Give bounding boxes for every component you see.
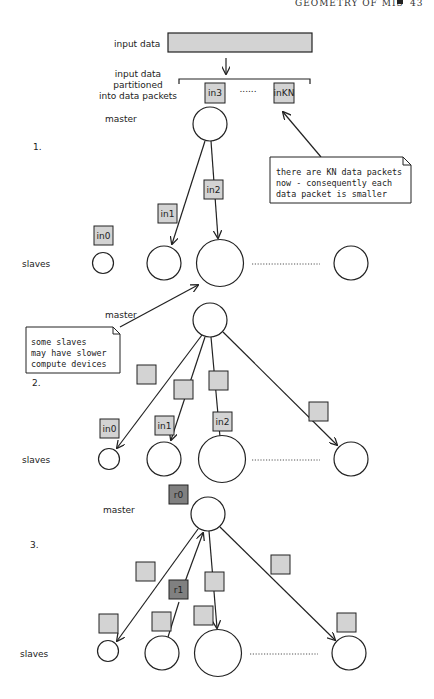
callout2-line1: some slaves bbox=[31, 337, 86, 347]
callout2-line2: may have slower bbox=[31, 348, 107, 358]
stage3-slave-1 bbox=[145, 636, 179, 670]
svg-text:in2: in2 bbox=[207, 185, 221, 195]
svg-text:r1: r1 bbox=[174, 585, 183, 595]
stage2-slave-n bbox=[334, 442, 368, 476]
stage2-number: 2. bbox=[32, 378, 41, 388]
stage1-slaves-label: slaves bbox=[22, 259, 51, 269]
callout2-line3: compute devices bbox=[31, 359, 107, 369]
stage1-slave-n bbox=[334, 246, 368, 280]
stage2-master-node bbox=[193, 303, 227, 337]
svg-text:in1: in1 bbox=[161, 209, 175, 219]
stage2-packet-pending-d bbox=[309, 402, 328, 421]
stage2-master-label: master bbox=[105, 310, 137, 320]
stage3-slave-n bbox=[332, 636, 366, 670]
stage3-slave-0 bbox=[98, 641, 119, 662]
stage1-master-node bbox=[193, 107, 227, 141]
stage3-packet-g bbox=[337, 613, 356, 632]
stage1-master-label: master bbox=[105, 114, 137, 124]
diagram-canvas: GEOMETRY OF MIS 43 input data input data… bbox=[0, 0, 434, 699]
stage2-packet-pending-a bbox=[137, 365, 156, 384]
stage3-packet-b bbox=[271, 555, 290, 574]
stage3-packet-f bbox=[194, 606, 213, 625]
header-square-icon bbox=[397, 0, 403, 4]
stage1-slave-0 bbox=[93, 253, 114, 274]
stage1-number: 1. bbox=[33, 142, 42, 152]
stage3-packet-e bbox=[152, 612, 171, 631]
stage2-edge-slaven bbox=[223, 332, 337, 445]
stage3-slave-2 bbox=[195, 630, 242, 677]
stage3-packet-c bbox=[205, 572, 224, 591]
callout2-pointer bbox=[120, 285, 198, 327]
svg-text:inKN: inKN bbox=[274, 88, 295, 98]
svg-text:in0: in0 bbox=[97, 231, 111, 241]
svg-text:in2: in2 bbox=[216, 417, 230, 427]
input-data-bar bbox=[168, 33, 312, 52]
stage2-slave-0 bbox=[99, 449, 120, 470]
svg-text:in3: in3 bbox=[208, 88, 222, 98]
stage2-packet-pending-c bbox=[209, 371, 228, 390]
partition-label-1: input data bbox=[115, 69, 161, 79]
svg-text:in1: in1 bbox=[158, 421, 172, 431]
stage2-slave-1 bbox=[147, 442, 181, 476]
svg-text:in0: in0 bbox=[103, 424, 117, 434]
stage3-packet-d bbox=[99, 614, 118, 633]
callout1-pointer bbox=[283, 112, 321, 157]
svg-text:r0: r0 bbox=[174, 490, 184, 500]
stage3-number: 3. bbox=[30, 540, 39, 550]
stage3-master-label: master bbox=[103, 505, 135, 515]
stage3-packet-a bbox=[136, 562, 155, 581]
stage1-slave-2 bbox=[197, 240, 244, 287]
stage3-edge-slaven bbox=[220, 527, 335, 640]
callout1-line2: now - consequently each bbox=[276, 178, 392, 188]
stage3-master-node bbox=[191, 497, 225, 531]
stage2-slaves-label: slaves bbox=[22, 455, 51, 465]
partition-label-3: into data packets bbox=[99, 91, 177, 101]
input-data-label: input data bbox=[114, 39, 160, 49]
stage1-edge-slave1 bbox=[172, 141, 205, 244]
partition-label-2: partitioned bbox=[113, 80, 162, 90]
stage2-packet-pending-b bbox=[174, 380, 193, 399]
running-title: GEOMETRY OF MIS bbox=[295, 0, 404, 8]
packet-ellipsis: ...... bbox=[239, 84, 256, 94]
stage1-slave-1 bbox=[147, 246, 181, 280]
stage2-slave-2 bbox=[199, 436, 246, 483]
callout1-line1: there are KN data packets bbox=[276, 167, 402, 177]
callout1-line3: data packet is smaller bbox=[276, 189, 387, 199]
page-number: 43 bbox=[410, 0, 423, 8]
stage3-slaves-label: slaves bbox=[20, 649, 49, 659]
